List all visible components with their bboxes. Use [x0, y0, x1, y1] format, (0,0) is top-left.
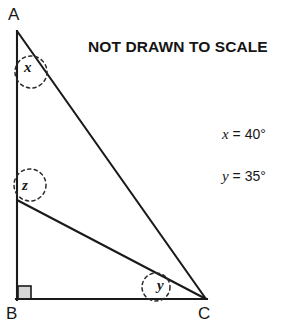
given-y-value: 35° [245, 168, 266, 184]
segment-AC [17, 31, 206, 299]
angle-marker-y-dashed-circle [142, 273, 170, 301]
not-drawn-to-scale-note: NOT DRAWN TO SCALE [88, 38, 268, 56]
angle-marker-z-dashed-circle [14, 169, 46, 201]
given-value-y: y = 35° [222, 169, 266, 184]
geometry-figure: A B C x z y NOT DRAWN TO SCALE x = 40° y… [0, 0, 286, 331]
given-y-equals: = [233, 168, 241, 184]
given-x-equals: = [233, 126, 241, 142]
vertex-label-a: A [8, 6, 19, 23]
given-x-variable: x [222, 126, 229, 142]
angle-label-z: z [22, 178, 28, 193]
angle-label-y: y [157, 278, 164, 293]
given-x-value: 40° [245, 126, 266, 142]
right-angle-marker-B [18, 286, 31, 299]
angle-label-x: x [24, 60, 32, 75]
vertex-label-c: C [198, 305, 210, 322]
given-value-x: x = 40° [222, 127, 266, 142]
segment-DC [17, 200, 206, 299]
given-y-variable: y [222, 168, 229, 184]
vertex-label-b: B [6, 305, 17, 322]
